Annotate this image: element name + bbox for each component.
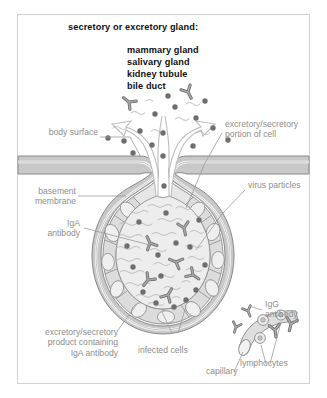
label-body-surface: body surface	[14, 127, 98, 137]
label-igg-antibody: IgG antibody	[265, 299, 298, 320]
gland-examples-list: mammary gland salivary gland kidney tubu…	[127, 44, 199, 92]
label-lymphocytes: lymphocytes	[240, 358, 288, 368]
label-infected-cells: infected cells	[138, 345, 188, 355]
figure-title: secretory or excretory gland:	[68, 22, 198, 32]
label-basement-membrane: basement membrane	[6, 186, 76, 207]
label-excretory-product: excretory/secretory product containing I…	[12, 327, 118, 358]
leader-igg-antibody	[249, 306, 262, 310]
label-capillary: capillary	[206, 366, 238, 376]
figure-immunity-secretory-gland: secretory or excretory gland: mammary gl…	[0, 0, 327, 398]
label-excretory-portion: excretory/secretory portion of cell	[225, 119, 298, 140]
label-virus-particles: virus particles	[248, 180, 301, 190]
label-iga-antibody: IgA antibody	[14, 218, 80, 239]
